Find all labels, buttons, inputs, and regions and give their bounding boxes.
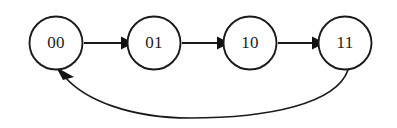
state-diagram-canvas: 00 01 10 11 (0, 0, 397, 128)
state-node-00[interactable]: 00 (30, 17, 83, 70)
edge-11-to-00-feedback[interactable] (56, 67, 348, 118)
state-node-10[interactable]: 10 (224, 17, 277, 70)
state-diagram-svg: 00 01 10 11 (0, 0, 397, 128)
state-node-label: 01 (145, 33, 163, 52)
state-node-label: 11 (337, 33, 354, 52)
edge-00-to-01[interactable] (84, 36, 134, 49)
feedback-curve (65, 70, 348, 118)
state-node-label: 00 (47, 33, 65, 52)
state-node-01[interactable]: 01 (128, 17, 181, 70)
state-node-11[interactable]: 11 (319, 17, 372, 70)
state-node-label: 10 (241, 33, 259, 52)
